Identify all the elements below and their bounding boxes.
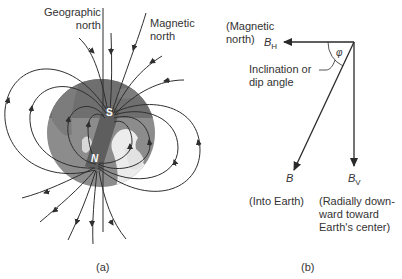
magnetic-north-label: Magnetic north [150, 17, 195, 43]
b-label: B [286, 172, 293, 185]
diagram-canvas [0, 0, 402, 279]
phi-label: φ [336, 46, 343, 59]
radial-label: (Radially down- ward toward Earth's cent… [319, 195, 395, 234]
geographic-north-label: Geographic north [44, 6, 101, 32]
caption-a: (a) [96, 261, 109, 273]
magnet-south-pole: S [106, 106, 113, 119]
field-vector-diagram [284, 42, 354, 170]
inclination-label: Inclination or dip angle [249, 63, 311, 89]
inclination-leader [319, 60, 335, 70]
b-vector [294, 42, 354, 170]
bh-label: BH [264, 36, 277, 50]
into-earth-label: (Into Earth) [249, 195, 304, 208]
bv-label: BV [348, 172, 361, 186]
caption-b: (b) [301, 261, 314, 273]
magnet-north-pole: N [91, 152, 98, 165]
